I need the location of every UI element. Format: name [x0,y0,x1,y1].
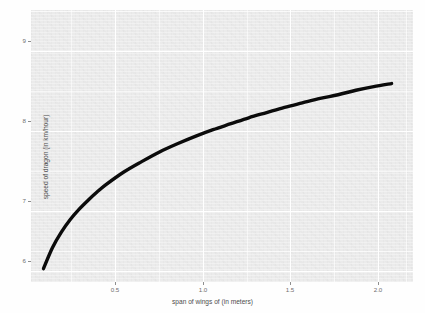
y-tick-label: 9 [23,38,26,44]
x-axis-title: span of wings of (in meters) [172,299,253,306]
x-tick-mark [115,282,116,285]
y-tick-mark [28,201,31,202]
y-tick-label: 8 [23,118,26,124]
y-tick-mark [28,261,31,262]
x-tick-mark [203,282,204,285]
x-tick-label: 1.0 [199,287,208,293]
x-tick-label: 1.5 [286,287,295,293]
x-tick-label: 2.0 [374,287,383,293]
y-tick-mark [28,121,31,122]
plot-panel [31,10,413,282]
x-tick-label: 0.5 [111,287,120,293]
x-tick-mark [378,282,379,285]
y-tick-mark [28,41,31,42]
y-tick-label: 6 [23,258,26,264]
data-curve [31,10,413,282]
y-tick-label: 7 [23,198,26,204]
y-axis-title: speed of dragon (in km/hour) [43,114,50,199]
chart-container: 9 8 7 6 0.5 1.0 1.5 2.0 span of wings of… [0,0,425,313]
x-tick-mark [290,282,291,285]
